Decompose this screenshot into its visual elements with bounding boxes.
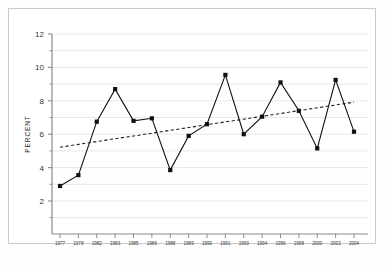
data-point-marker (242, 132, 246, 136)
data-point-marker (352, 130, 356, 134)
data-point-marker (58, 184, 62, 188)
y-axis-tick-labels: 24681012 (35, 30, 44, 206)
plot-area: 24681012 1977197819821983198519861988198… (0, 0, 390, 266)
x-axis-ticks (60, 234, 354, 238)
x-tick-label: 2004 (349, 241, 360, 246)
x-tick-label: 1993 (239, 241, 250, 246)
x-axis-tick-labels: 1977197819821983198519861988198919901991… (55, 241, 360, 246)
gridlines (52, 34, 368, 218)
data-markers (58, 73, 356, 188)
x-tick-label: 1982 (92, 241, 103, 246)
y-axis-title: PERCENT (24, 115, 31, 152)
data-point-marker (168, 168, 172, 172)
data-point-marker (95, 120, 99, 124)
chart-figure: 24681012 1977197819821983198519861988198… (0, 0, 390, 266)
x-tick-label: 1991 (220, 241, 231, 246)
data-point-marker (205, 122, 209, 126)
data-line (60, 75, 354, 186)
x-tick-label: 1986 (147, 241, 158, 246)
x-tick-label: 1989 (184, 241, 195, 246)
y-tick-label: 4 (40, 164, 45, 173)
x-tick-label: 1988 (165, 241, 176, 246)
data-point-marker (187, 134, 191, 138)
x-tick-label: 1990 (202, 241, 213, 246)
data-point-marker (131, 119, 135, 123)
data-point-marker (334, 78, 338, 82)
data-point-marker (260, 115, 264, 119)
data-point-marker (278, 80, 282, 84)
x-tick-label: 1985 (128, 241, 139, 246)
x-tick-label: 2000 (312, 241, 323, 246)
x-tick-label: 2002 (331, 241, 342, 246)
data-point-marker (315, 146, 319, 150)
y-tick-label: 2 (40, 197, 45, 206)
y-tick-label: 8 (40, 97, 45, 106)
data-point-marker (297, 109, 301, 113)
y-tick-label: 12 (35, 30, 44, 39)
x-tick-label: 1977 (55, 241, 66, 246)
x-tick-label: 1996 (275, 241, 286, 246)
x-tick-label: 1983 (110, 241, 121, 246)
y-tick-label: 10 (35, 63, 44, 72)
data-point-marker (76, 173, 80, 177)
y-tick-label: 6 (40, 130, 45, 139)
line-chart: 24681012 1977197819821983198519861988198… (0, 0, 390, 266)
data-point-marker (223, 73, 227, 77)
data-point-marker (150, 116, 154, 120)
x-tick-label: 1994 (257, 241, 268, 246)
data-point-marker (113, 87, 117, 91)
x-tick-label: 1978 (73, 241, 84, 246)
x-tick-label: 1998 (294, 241, 305, 246)
